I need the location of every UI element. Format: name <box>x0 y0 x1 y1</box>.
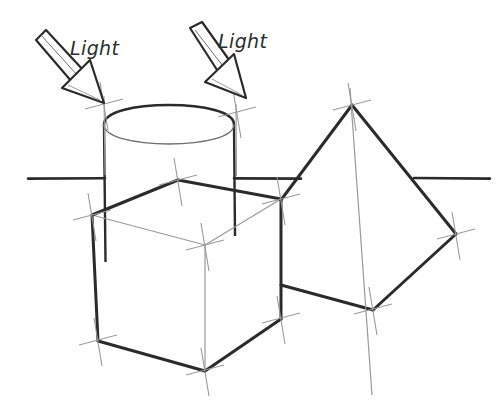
cylinder <box>104 96 237 262</box>
drawing-canvas: Light Light <box>0 0 504 403</box>
cube <box>92 180 281 371</box>
pyramid <box>281 88 456 395</box>
light-label-left: Light <box>70 37 121 59</box>
horizon-line <box>28 178 490 179</box>
vertex-marks <box>73 82 475 396</box>
sketch-svg: Light Light <box>0 0 504 403</box>
light-label-right: Light <box>218 30 269 52</box>
